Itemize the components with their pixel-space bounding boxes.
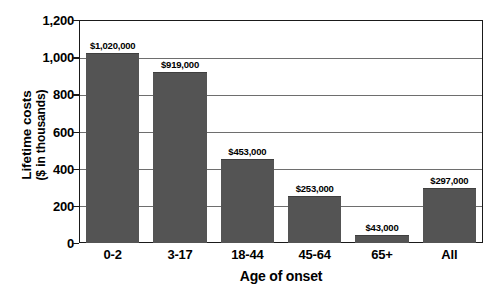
y-axis-tick-label: 200 [30,198,74,213]
bar-value-label: $43,000 [366,222,399,233]
x-axis-category-label: 45-64 [299,247,331,262]
x-axis-category-labels: 0-23-1718-4445-6465+All [79,247,483,267]
y-axis-tick-labels: 02004006008001,0001,200 [30,0,74,302]
bar [355,235,408,243]
bars-layer: $1,020,000$919,000$453,000$253,000$43,00… [79,20,483,243]
x-axis-category-label: 65+ [371,247,392,262]
y-axis-tick-label: 800 [30,87,74,102]
bar [86,53,139,243]
bar-value-label: $297,000 [430,175,468,186]
x-axis-title: Age of onset [79,268,483,284]
x-axis-category-label: 18-44 [231,247,263,262]
y-axis-tick-label: 1,200 [30,13,74,28]
y-axis-tick-label: 600 [30,124,74,139]
x-axis-category-label: 3-17 [167,247,192,262]
bar [153,72,206,243]
bar [288,196,341,243]
bar-value-label: $1,020,000 [90,40,136,51]
y-axis-tick-mark [73,243,79,244]
bar-value-label: $453,000 [228,146,266,157]
bar-value-label: $919,000 [161,59,199,70]
x-axis-category-label: 0-2 [104,247,122,262]
y-axis-tick-label: 400 [30,161,74,176]
y-axis-tick-label: 0 [30,236,74,251]
bar [423,188,476,243]
bar-value-label: $253,000 [296,183,334,194]
bar [221,159,274,243]
x-axis-category-label: All [441,247,457,262]
y-axis-tick-label: 1,000 [30,50,74,65]
bar-chart: Lifetime costs ($ in thousands) 02004006… [0,0,500,302]
